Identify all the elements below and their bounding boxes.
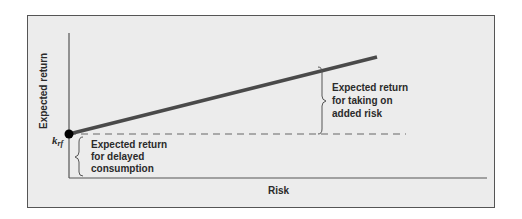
risk-return-line bbox=[69, 57, 377, 134]
risk-return-diagram: Expected return Risk krf Expected return… bbox=[0, 0, 522, 219]
annotation-delayed-consumption: Expected return for delayed consumption bbox=[91, 139, 170, 174]
intercept-label: krf bbox=[52, 134, 65, 148]
brace-added-risk-icon bbox=[318, 67, 326, 134]
annotation-added-risk: Expected return for taking on added risk bbox=[332, 82, 411, 119]
y-axis-label: Expected return bbox=[38, 53, 49, 129]
brace-delayed-consumption-icon bbox=[75, 137, 83, 176]
x-axis-label: Risk bbox=[268, 185, 290, 196]
intercept-dot bbox=[65, 130, 74, 139]
